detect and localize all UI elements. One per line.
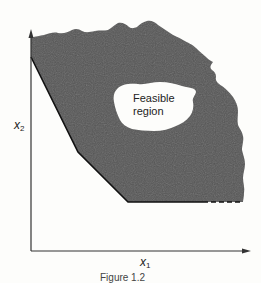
y-axis-arrowhead <box>29 29 34 38</box>
x-axis-label: x1 <box>140 255 150 270</box>
x-axis-arrowhead <box>242 249 251 254</box>
figure-caption: Figure 1.2 <box>100 272 145 283</box>
y-axis-label-subscript: 2 <box>20 124 24 133</box>
feasible-region-label-line2: region <box>133 105 193 118</box>
y-axis-label: x2 <box>14 118 24 133</box>
feasible-region-label-line1: Feasible <box>133 92 193 105</box>
x-axis-label-subscript: 1 <box>146 261 150 270</box>
feasible-region-label: Feasible region <box>133 92 193 118</box>
